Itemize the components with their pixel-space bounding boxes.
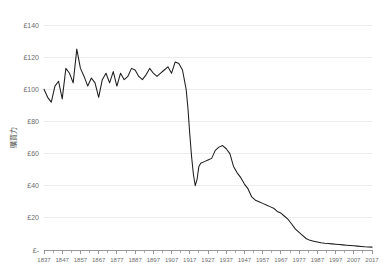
x-axis-tick-label: 1877 bbox=[110, 257, 124, 263]
x-axis-tick-label: 1907 bbox=[165, 257, 179, 263]
x-axis-tick-label: 1997 bbox=[329, 257, 343, 263]
gridlines-group bbox=[44, 25, 372, 218]
x-axis-tick-label: 1837 bbox=[37, 257, 51, 263]
purchasing-power-chart: £140£120£100£80£60£40£20£- 1837184718571… bbox=[0, 0, 384, 280]
y-axis-tick-label: £60 bbox=[27, 150, 39, 157]
x-axis-tick-label: 1857 bbox=[74, 257, 88, 263]
x-axis-tick-label: 1927 bbox=[201, 257, 215, 263]
y-axis-tick-label: £- bbox=[33, 247, 40, 254]
x-axis-tick-label: 1917 bbox=[183, 257, 197, 263]
x-axis-tick-label: 1947 bbox=[238, 257, 252, 263]
y-axis-tick-label: £120 bbox=[23, 54, 39, 61]
y-axis-tick-label: £40 bbox=[27, 182, 39, 189]
x-axis-tick-label: 1967 bbox=[274, 257, 288, 263]
y-axis-ticks-group: £140£120£100£80£60£40£20£- bbox=[23, 22, 39, 254]
y-axis-tick-label: £100 bbox=[23, 86, 39, 93]
x-axis-tick-label: 1847 bbox=[56, 257, 70, 263]
x-axis-tick-label: 1887 bbox=[128, 257, 142, 263]
chart-canvas: £140£120£100£80£60£40£20£- 1837184718571… bbox=[0, 0, 384, 280]
x-axis-tick-label: 2017 bbox=[365, 257, 379, 263]
x-axis-tick-label: 1897 bbox=[147, 257, 161, 263]
x-axis-tick-label: 1977 bbox=[292, 257, 306, 263]
y-axis-title: 購買力 bbox=[9, 127, 18, 148]
x-axis-tick-label: 2007 bbox=[347, 257, 361, 263]
y-axis-tick-label: £20 bbox=[27, 214, 39, 221]
x-axis-tick-label: 1987 bbox=[311, 257, 325, 263]
x-axis-tick-label: 1867 bbox=[92, 257, 106, 263]
y-axis-tick-label: £140 bbox=[23, 22, 39, 29]
x-axis-tick-label: 1957 bbox=[256, 257, 270, 263]
y-axis-tick-label: £80 bbox=[27, 118, 39, 125]
x-axis-ticks-group: 1837184718571867187718871897190719171927… bbox=[37, 250, 379, 263]
y-axis-title-group: 購買力 bbox=[9, 127, 18, 148]
x-axis-tick-label: 1937 bbox=[220, 257, 234, 263]
